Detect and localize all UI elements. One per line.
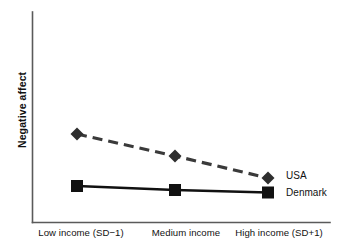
- x-tick-label-medium-income: Medium income: [152, 227, 220, 238]
- negative-affect-line-chart: Negative affect USA Denmark Low income (…: [0, 0, 343, 250]
- legend-label-usa: USA: [286, 170, 307, 181]
- denmark-data-point-high: [262, 187, 274, 199]
- denmark-data-point-low: [71, 180, 83, 192]
- chart-figure: Negative affect USA Denmark Low income (…: [0, 0, 343, 250]
- x-tick-label-low-income: Low income (SD−1): [38, 227, 123, 238]
- x-tick-label-high-income: High income (SD+1): [235, 227, 323, 238]
- y-axis-label: Negative affect: [16, 71, 28, 148]
- legend-label-denmark: Denmark: [286, 187, 328, 198]
- chart-background: [0, 0, 343, 250]
- denmark-data-point-medium: [169, 184, 181, 196]
